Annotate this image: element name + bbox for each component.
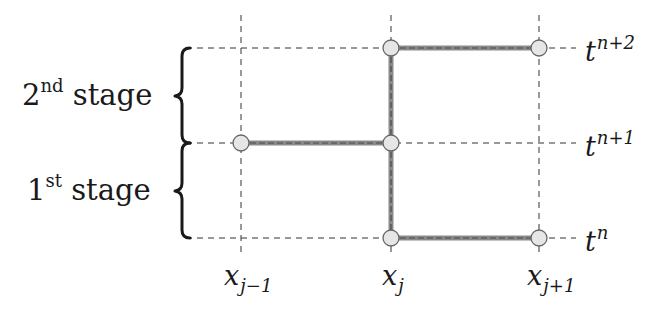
t-label-n: tn: [585, 228, 608, 255]
x-label-j-plus-1: xj+1: [527, 262, 575, 289]
brace-stage-1: [175, 143, 190, 238]
node-j-plus-1-n-plus-2: [531, 40, 547, 56]
node-j-n-plus-1: [383, 135, 399, 151]
stage-2-number: 2: [22, 78, 40, 112]
t-label-n-plus-2: tn+2: [585, 38, 635, 65]
node-j-n-plus-2: [383, 40, 399, 56]
x-label-j-minus-1: xj−1: [224, 262, 272, 289]
brace-stage-2: [175, 48, 190, 143]
x-label-j: xj: [382, 262, 404, 289]
node-j-plus-1-n: [531, 230, 547, 246]
t-label-n-plus-1: tn+1: [585, 133, 635, 160]
stage-2-word: stage: [73, 78, 153, 112]
stage-2-label: 2nd stage: [22, 81, 152, 110]
stage-2-suffix: nd: [40, 75, 63, 96]
stage-1-number: 1: [27, 173, 45, 207]
node-j-minus-1-n-plus-1: [233, 135, 249, 151]
node-j-n: [383, 230, 399, 246]
stage-1-label: 1st stage: [27, 176, 151, 205]
stage-braces: [175, 48, 190, 238]
stage-1-suffix: st: [45, 170, 61, 191]
stage-1-word: stage: [71, 173, 151, 207]
